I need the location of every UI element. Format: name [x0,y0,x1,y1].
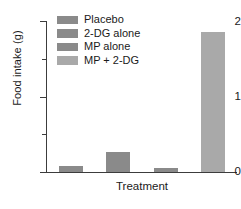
y-tick-1 [40,97,47,98]
bar-placebo [59,166,83,172]
legend-swatch-mp-plus-2dg [57,56,78,65]
bar-mp-alone [154,168,178,172]
y-axis-title: Food intake (g) [11,13,23,123]
legend-item-mp-alone: MP alone [57,40,140,54]
legend-label-placebo: Placebo [84,14,124,25]
y-tick-0 [40,172,47,173]
legend-item-mp-plus-2dg: MP + 2-DG [57,54,140,68]
x-axis-line [46,172,237,173]
y-tick-2 [40,21,47,22]
chart-legend: Placebo 2-DG alone MP alone MP + 2-DG [57,13,140,67]
legend-item-2dg-alone: 2-DG alone [57,27,140,41]
legend-label-mp-alone: MP alone [84,41,130,52]
legend-swatch-mp-alone [57,43,78,52]
legend-swatch-2dg-alone [57,29,78,38]
x-axis-title: Treatment [47,180,237,192]
bar-mp-plus-2dg [201,32,225,172]
bar-2dg-alone [106,152,130,172]
bar-chart-figure: Food intake (g) 2 1 0 Treatment Placebo … [0,0,241,209]
legend-item-placebo: Placebo [57,13,140,27]
legend-swatch-placebo [57,16,78,25]
legend-label-mp-plus-2dg: MP + 2-DG [84,55,139,66]
legend-label-2dg-alone: 2-DG alone [84,28,140,39]
